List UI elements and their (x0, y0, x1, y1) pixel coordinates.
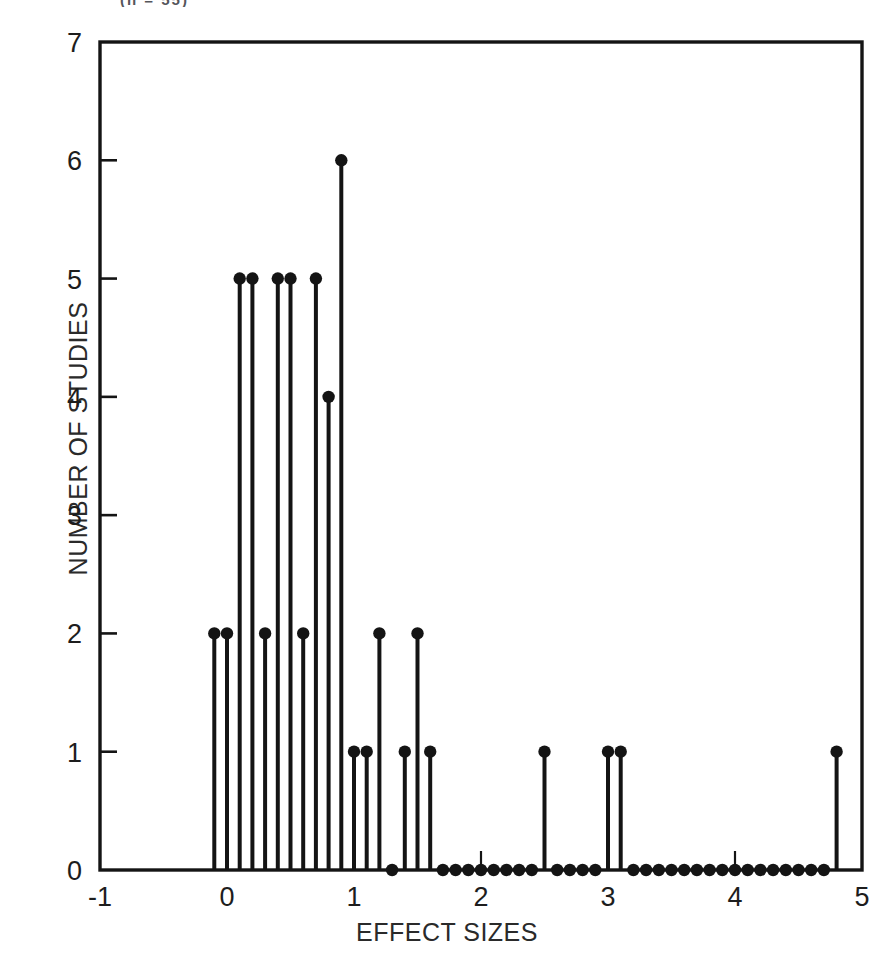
y-tick-label: 1 (67, 738, 82, 768)
x-tick-label: 1 (346, 882, 361, 912)
x-tick-label: 0 (219, 882, 234, 912)
stem-point (284, 272, 296, 870)
stem-point (322, 391, 334, 870)
x-tick-label: 3 (600, 882, 615, 912)
x-tick-label: 5 (854, 882, 869, 912)
axis-tick-labels: 01234567-1012345 (67, 28, 870, 912)
stem-point (297, 627, 309, 870)
stem-point (272, 272, 284, 870)
y-tick-label: 5 (67, 265, 82, 295)
y-tick-label: 2 (67, 619, 82, 649)
x-tick-label: 4 (727, 882, 742, 912)
stem-point (259, 627, 271, 870)
y-tick-label: 3 (67, 501, 82, 531)
y-tick-label: 6 (67, 146, 82, 176)
stem-point (424, 746, 436, 870)
stem-point (615, 746, 627, 870)
stem-point (830, 746, 842, 870)
stem-point (538, 746, 550, 870)
figure-container: (n = 55) NUMBER OF STUDIES EFFECT SIZES … (0, 0, 894, 961)
x-tick-label: 2 (473, 882, 488, 912)
stem-point (361, 746, 373, 870)
stems-layer (208, 154, 843, 876)
stem-point (310, 272, 322, 870)
y-tick-label: 0 (67, 856, 82, 886)
stem-point (335, 154, 347, 870)
stem-point (373, 627, 385, 870)
stem-point (234, 272, 246, 870)
y-tick-label: 7 (67, 28, 82, 58)
stem-point (246, 272, 258, 870)
stem-point (399, 746, 411, 870)
stem-point (411, 627, 423, 870)
x-tick-label: -1 (88, 882, 112, 912)
stem-point (221, 627, 233, 870)
stem-plot: 01234567-1012345 (0, 0, 894, 961)
stem-point (208, 627, 220, 870)
y-tick-label: 4 (67, 383, 82, 413)
